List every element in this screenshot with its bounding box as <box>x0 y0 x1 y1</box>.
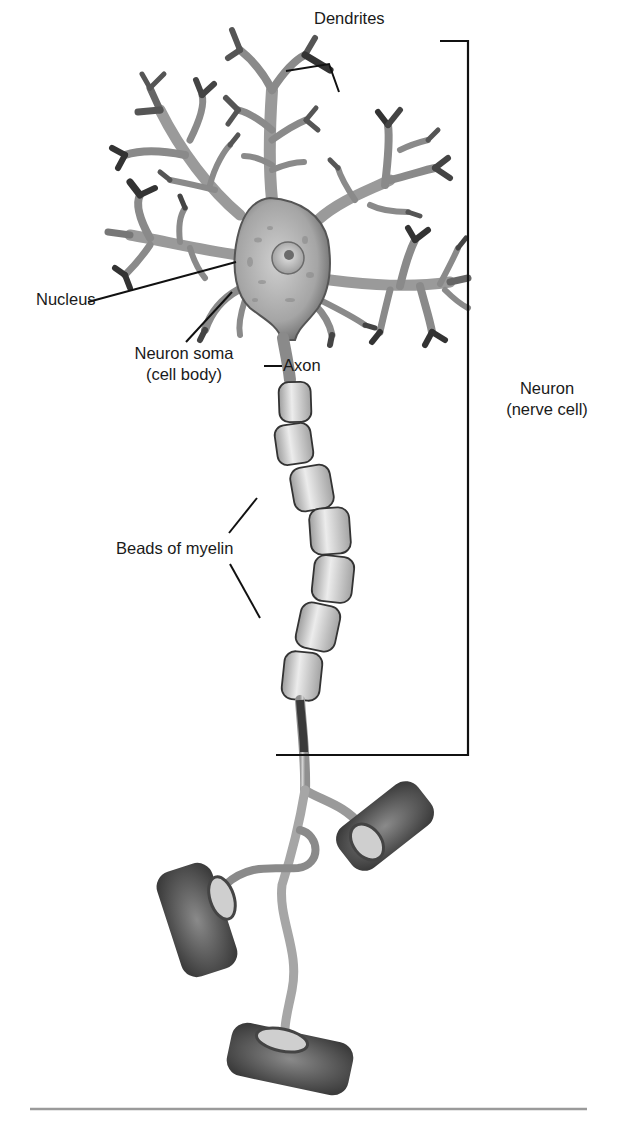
axon-terminals <box>225 790 360 1030</box>
neuron-diagram: Dendrites Nucleus Neuron soma (cell body… <box>0 0 617 1122</box>
dendrite-upper-left <box>112 74 240 215</box>
dendrite-top <box>226 30 330 200</box>
dendrites-label: Dendrites <box>314 8 385 29</box>
soma-label-line2: (cell body) <box>118 364 250 385</box>
myelin-beads <box>273 381 355 701</box>
neuron-label-line1: Neuron <box>492 378 602 399</box>
soma-leader <box>186 292 232 342</box>
neuron-soma <box>235 198 330 340</box>
myelin-bead <box>281 650 324 702</box>
dendrite-right <box>330 228 468 345</box>
myelin-leader-lower <box>230 564 260 618</box>
soma-label: Neuron soma (cell body) <box>118 343 250 385</box>
myelin-bead <box>288 463 335 513</box>
leader-lines <box>88 64 339 618</box>
axon-terminal-left <box>152 859 241 982</box>
myelin-leader-upper <box>229 498 257 533</box>
soma-label-line1: Neuron soma <box>118 343 250 364</box>
neuron-label: Neuron (nerve cell) <box>492 378 602 420</box>
nucleus-leader <box>88 262 236 302</box>
myelin-bead <box>273 422 314 467</box>
myelin-bead <box>294 600 343 653</box>
myelin-bead <box>308 507 351 556</box>
dendrite-upper-right <box>318 110 450 220</box>
neuron-label-line2: (nerve cell) <box>492 399 602 420</box>
myelin-bead <box>278 381 311 422</box>
axon-terminal-right <box>330 775 441 878</box>
axon-label: Axon <box>283 355 321 376</box>
nucleus-label: Nucleus <box>36 289 96 310</box>
myelin-bead <box>311 554 356 604</box>
axon-terminal-bottom <box>224 1020 357 1099</box>
myelin-label: Beads of myelin <box>116 538 233 559</box>
neuron-illustration <box>0 0 617 1122</box>
